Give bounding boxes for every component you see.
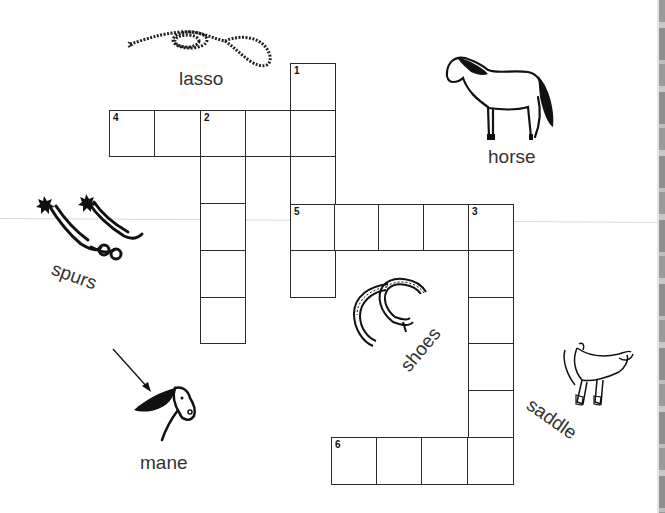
cell-3-down-3[interactable] [468, 297, 514, 344]
cell-5-across-1[interactable]: 5 [290, 204, 336, 251]
cell-6-across-1[interactable]: 6 [331, 437, 377, 485]
saddle-icon [557, 340, 637, 415]
cell-3-down-5[interactable] [468, 390, 514, 438]
cell-2-down-3[interactable] [200, 203, 246, 251]
word-horse: horse [488, 146, 536, 168]
cell-5-across-3[interactable] [378, 204, 424, 251]
cell-2-down-2[interactable] [200, 156, 246, 204]
cell-2-down-5[interactable] [200, 297, 246, 344]
clue-number: 2 [204, 112, 210, 123]
cell-5-across-5[interactable]: 3 [468, 204, 514, 251]
clue-number: 3 [472, 206, 478, 217]
cell-6-across-3[interactable] [421, 437, 468, 485]
cell-1-down-1[interactable]: 1 [290, 63, 336, 111]
cell-4-across-4[interactable] [245, 110, 291, 157]
cell-5-across-2[interactable] [334, 204, 380, 251]
cell-3-down-4[interactable] [468, 343, 514, 391]
cell-1-down-3[interactable] [290, 156, 336, 205]
spurs-icon [36, 192, 151, 267]
clue-number: 4 [113, 112, 119, 123]
clue-number: 1 [294, 65, 300, 76]
cell-4-across-5[interactable] [290, 110, 336, 157]
cell-5-across-4[interactable] [423, 204, 469, 251]
cell-1-down-5[interactable] [290, 250, 336, 298]
cell-4-across-2[interactable] [154, 110, 201, 157]
horse-head-icon [130, 380, 202, 442]
cell-3-down-2[interactable] [468, 250, 514, 298]
word-mane: mane [140, 452, 188, 474]
word-lasso: lasso [179, 68, 223, 90]
horse-icon [443, 52, 558, 144]
clue-number: 5 [294, 206, 300, 217]
cell-4-across-1[interactable]: 4 [109, 110, 155, 157]
cell-6-across-4[interactable] [467, 437, 514, 485]
cell-2-down-4[interactable] [200, 250, 246, 298]
clue-number: 6 [335, 439, 341, 450]
page-edge [659, 0, 665, 513]
cell-6-across-2[interactable] [376, 437, 422, 485]
cell-4-across-3[interactable]: 2 [200, 110, 246, 157]
